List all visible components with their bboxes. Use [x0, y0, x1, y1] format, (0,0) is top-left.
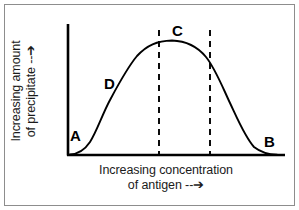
curve-label-d: D: [104, 76, 115, 91]
precipitin-curve-figure: Increasing amount of precipitate --➔ Inc…: [0, 0, 299, 210]
curve-label-b: B: [264, 134, 275, 149]
precipitin-curve-line: [70, 41, 277, 155]
curve-label-a: A: [70, 128, 81, 143]
x-axis-label: Increasing concentration of antigen --➔: [66, 163, 266, 193]
y-axis-label: Increasing amount of precipitate --➔: [9, 25, 39, 157]
curve-label-c: C: [172, 23, 183, 38]
